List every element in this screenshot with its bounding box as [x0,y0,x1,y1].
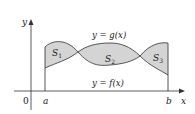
x-axis-label: x [181,96,186,106]
b-label: b [166,96,172,106]
x-axis-arrow-icon [179,89,185,94]
a-label: a [43,96,48,106]
curve-g-label: y = g(x) [91,30,126,40]
curve-f-label: y = f(x) [91,78,124,88]
y-axis-arrow-icon [29,19,34,25]
origin-label: 0 [23,96,29,106]
y-axis-label: y [21,17,28,27]
area-between-curves-diagram: y x 0 a b y = g(x) y = f(x) S1 S2 S3 [0,0,195,114]
